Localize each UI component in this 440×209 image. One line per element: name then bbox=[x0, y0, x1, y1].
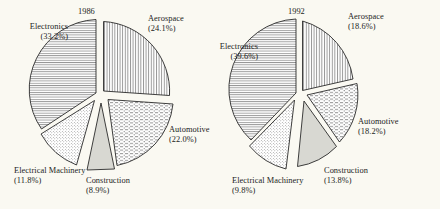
label-construction-1992-pct: (13.8%) bbox=[324, 176, 368, 186]
label-aerospace-1986-name: Aerospace bbox=[148, 14, 184, 23]
label-electrical-machinery-1992-name: Electrical Machinery bbox=[232, 176, 303, 185]
chart-year-1992: 1992 bbox=[288, 7, 305, 16]
label-electrical-machinery-1992: Electrical Machinery (9.8%) bbox=[232, 176, 303, 196]
label-construction-1992: Construction (13.8%) bbox=[324, 166, 368, 186]
label-aerospace-1986-pct: (24.1%) bbox=[148, 24, 184, 34]
label-construction-1986: Construction (8.9%) bbox=[86, 176, 130, 196]
label-construction-1992-name: Construction bbox=[324, 166, 368, 175]
label-electrical-machinery-1986-pct: (11.8%) bbox=[14, 176, 85, 186]
label-aerospace-1992-name: Aerospace bbox=[348, 12, 384, 21]
pie-chart-figure: 1986 Electronics (33.2%) Aerospace (24.1… bbox=[0, 0, 440, 209]
pie-chart-1986: 1986 Electronics (33.2%) Aerospace (24.1… bbox=[0, 0, 220, 209]
label-aerospace-1992-pct: (18.6%) bbox=[348, 22, 384, 32]
label-electronics-1992: Electronics (39.6%) bbox=[192, 42, 258, 62]
label-automotive-1992-name: Automotive bbox=[358, 117, 399, 126]
label-construction-1986-pct: (8.9%) bbox=[86, 186, 130, 196]
label-electronics-1986-pct: (33.2%) bbox=[2, 32, 68, 42]
label-aerospace-1992: Aerospace (18.6%) bbox=[348, 12, 384, 32]
label-electrical-machinery-1986: Electrical Machinery (11.8%) bbox=[14, 166, 85, 186]
label-automotive-1986: Automotive (22.0%) bbox=[169, 125, 210, 145]
pie-chart-1992: 1992 Electronics (39.6%) Aerospace (18.6… bbox=[220, 0, 440, 209]
label-automotive-1992-pct: (18.2%) bbox=[358, 127, 399, 137]
chart-year-1986: 1986 bbox=[78, 7, 95, 16]
label-electrical-machinery-1992-pct: (9.8%) bbox=[232, 186, 303, 196]
slice-aerospace-1992[interactable] bbox=[303, 21, 354, 91]
label-electronics-1986: Electronics (33.2%) bbox=[2, 22, 68, 42]
label-electronics-1992-name: Electronics bbox=[220, 42, 258, 51]
slice-automotive-1986[interactable] bbox=[108, 100, 173, 166]
label-electrical-machinery-1986-name: Electrical Machinery bbox=[14, 166, 85, 175]
label-automotive-1992: Automotive (18.2%) bbox=[358, 117, 399, 137]
label-automotive-1986-pct: (22.0%) bbox=[169, 135, 210, 145]
label-construction-1986-name: Construction bbox=[86, 176, 130, 185]
label-electronics-1986-name: Electronics bbox=[30, 22, 68, 31]
label-electronics-1992-pct: (39.6%) bbox=[192, 52, 258, 62]
label-aerospace-1986: Aerospace (24.1%) bbox=[148, 14, 184, 34]
label-automotive-1986-name: Automotive bbox=[169, 125, 210, 134]
